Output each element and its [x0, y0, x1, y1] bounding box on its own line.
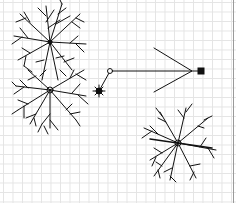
tree-symbol-2[interactable] — [12, 66, 88, 134]
tree-symbol-3[interactable] — [142, 104, 216, 182]
leader-line[interactable] — [99, 48, 204, 92]
leader-start-node[interactable] — [108, 69, 113, 74]
drawing-canvas[interactable] — [0, 0, 236, 203]
drawing-layer[interactable] — [0, 0, 236, 203]
tree-symbol-1[interactable] — [12, 0, 86, 80]
leader-end-grip[interactable] — [198, 68, 204, 74]
